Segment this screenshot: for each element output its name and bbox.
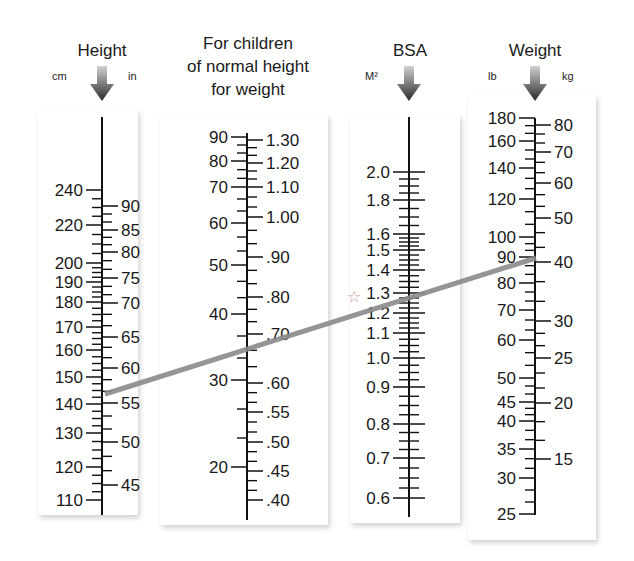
weight-scale: 1801601401201009080706050454035302580706… (488, 109, 573, 524)
height-scale: 2402202001901801701601501401301201109085… (55, 117, 140, 515)
children-left-tick-label: 30 (209, 371, 228, 390)
weight-left-tick-label: 160 (488, 132, 516, 151)
children-scale: 90807060504030201.301.201.101.00.90.80.7… (209, 128, 299, 520)
children-left-tick-label: 80 (209, 152, 228, 171)
weight-left-tick-label: 45 (497, 393, 516, 412)
height-arrow-icon (90, 66, 114, 101)
bsa-left-tick-label: 0.7 (366, 449, 390, 468)
bsa-left-tick-label: 1.5 (366, 241, 390, 260)
weight-right-tick-label: 50 (554, 209, 573, 228)
children-right-tick-label: .80 (266, 288, 290, 307)
height-right-tick-label: 80 (121, 243, 140, 262)
weight-right-tick-label: 70 (554, 143, 573, 162)
children-right-tick-label: .90 (266, 248, 290, 267)
height-right-tick-label: 60 (121, 359, 140, 378)
height-left-tick-label: 220 (55, 216, 83, 235)
height-left-tick-label: 160 (55, 341, 83, 360)
weight-left-tick-label: 100 (488, 228, 516, 247)
weight-left-tick-label: 30 (497, 469, 516, 488)
height-left-tick-label: 170 (55, 318, 83, 337)
nomogram-canvas: 2402202001901801701601501401301201109085… (0, 0, 634, 561)
bsa-scale: 2.01.81.61.51.41.31.21.11.00.90.80.70.6☆ (347, 117, 425, 517)
weight-right-tick-label: 30 (554, 312, 573, 331)
weight-left-tick-label: 25 (497, 505, 516, 524)
bsa-left-tick-label: 1.4 (366, 261, 390, 280)
height-left-tick-label: 120 (55, 458, 83, 477)
children-left-tick-label: 60 (209, 214, 228, 233)
height-left-tick-label: 180 (55, 293, 83, 312)
weight-right-tick-label: 40 (554, 253, 573, 272)
example-straightedge-line (105, 258, 536, 394)
children-right-tick-label: 1.30 (266, 131, 299, 150)
weight-left-tick-label: 70 (497, 301, 516, 320)
weight-right-tick-label: 20 (554, 394, 573, 413)
height-right-tick-label: 85 (121, 221, 140, 240)
height-right-tick-label: 70 (121, 294, 140, 313)
height-right-tick-label: 50 (121, 433, 140, 452)
children-right-tick-label: .45 (266, 462, 290, 481)
children-right-tick-label: .40 (266, 491, 290, 510)
bsa-left-tick-label: 0.6 (366, 489, 390, 508)
children-left-tick-label: 20 (209, 458, 228, 477)
bsa-left-tick-label: 1.3 (366, 284, 390, 303)
weight-left-tick-label: 35 (497, 440, 516, 459)
weight-left-tick-label: 140 (488, 159, 516, 178)
children-right-tick-label: .50 (266, 433, 290, 452)
weight-right-tick-label: 25 (554, 349, 573, 368)
bsa-left-tick-label: 2.0 (366, 163, 390, 182)
weight-right-tick-label: 60 (554, 174, 573, 193)
children-left-tick-label: 90 (209, 128, 228, 147)
bsa-left-tick-label: 1.1 (366, 324, 390, 343)
height-left-tick-label: 140 (55, 395, 83, 414)
bsa-left-tick-label: 1.8 (366, 191, 390, 210)
weight-left-tick-label: 60 (497, 331, 516, 350)
height-left-tick-label: 190 (55, 273, 83, 292)
height-right-tick-label: 55 (121, 394, 140, 413)
children-right-tick-label: 1.00 (266, 208, 299, 227)
children-right-tick-label: .55 (266, 403, 290, 422)
weight-right-tick-label: 80 (554, 116, 573, 135)
height-right-tick-label: 75 (121, 269, 140, 288)
height-right-tick-label: 90 (121, 197, 140, 216)
height-right-tick-label: 45 (121, 476, 140, 495)
bsa-left-tick-label: 1.0 (366, 349, 390, 368)
children-right-tick-label: 1.10 (266, 178, 299, 197)
children-right-tick-label: .60 (266, 374, 290, 393)
bsa-left-tick-label: 0.9 (366, 378, 390, 397)
height-left-tick-label: 200 (55, 254, 83, 273)
weight-left-tick-label: 120 (488, 190, 516, 209)
bsa-left-tick-label: 0.8 (366, 415, 390, 434)
height-left-tick-label: 150 (55, 368, 83, 387)
weight-left-tick-label: 50 (497, 369, 516, 388)
weight-left-tick-label: 40 (497, 412, 516, 431)
weight-left-tick-label: 80 (497, 274, 516, 293)
children-left-tick-label: 70 (209, 178, 228, 197)
height-left-tick-label: 110 (56, 491, 83, 510)
height-right-tick-label: 65 (121, 328, 140, 347)
children-left-tick-label: 40 (209, 305, 228, 324)
star-icon: ☆ (347, 287, 361, 306)
height-left-tick-label: 130 (55, 424, 83, 443)
children-right-tick-label: 1.20 (266, 154, 299, 173)
weight-left-tick-label: 180 (488, 109, 516, 128)
weight-right-tick-label: 15 (554, 450, 573, 469)
children-left-tick-label: 50 (209, 256, 228, 275)
height-left-tick-label: 240 (55, 181, 83, 200)
bsa-arrow-icon (397, 66, 421, 101)
weight-arrow-icon (523, 66, 547, 101)
